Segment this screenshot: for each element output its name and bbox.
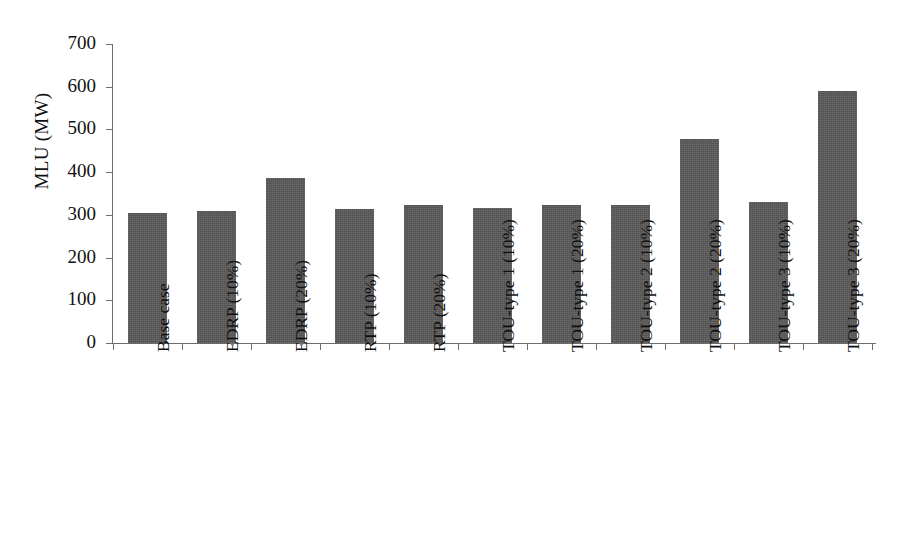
x-axis-tick bbox=[320, 343, 321, 350]
y-axis-tick-label: 600 bbox=[34, 76, 96, 95]
x-axis-tick bbox=[458, 343, 459, 350]
x-axis-label: EDRP (10%) bbox=[224, 352, 225, 353]
x-axis-label: TOU-type 2 (20%) bbox=[707, 352, 708, 353]
y-axis-tick-label-text: 200 bbox=[34, 247, 96, 266]
x-axis-label-text: TOU-type 3 (20%) bbox=[845, 219, 863, 352]
y-axis-tick-label: 300 bbox=[34, 204, 96, 223]
y-axis-tick bbox=[106, 129, 113, 130]
x-axis-tick bbox=[182, 343, 183, 350]
x-axis-tick bbox=[113, 343, 114, 350]
x-axis-label: TOU-type 3 (10%) bbox=[776, 352, 777, 353]
y-axis-tick bbox=[106, 172, 113, 173]
x-axis-label-text: TOU-type 1 (10%) bbox=[500, 219, 518, 352]
y-axis-tick-label-text: 0 bbox=[34, 332, 96, 351]
x-axis-label: TOU-type 1 (20%) bbox=[569, 352, 570, 353]
x-axis-label-text: EDRP (20%) bbox=[293, 260, 311, 352]
x-axis-label-text: TOU-type 1 (20%) bbox=[569, 219, 587, 352]
x-axis-label: Base case bbox=[155, 352, 156, 353]
x-axis-label-text: Base case bbox=[155, 283, 173, 352]
x-axis-label: RTP (10%) bbox=[362, 352, 363, 353]
y-axis-tick-label: 700 bbox=[34, 33, 96, 52]
x-axis-tick bbox=[251, 343, 252, 350]
x-axis-label-text: RTP (20%) bbox=[431, 273, 449, 352]
y-axis-tick-label-text: 300 bbox=[34, 204, 96, 223]
y-axis-tick-label: 100 bbox=[34, 289, 96, 308]
y-axis-tick bbox=[106, 258, 113, 259]
x-axis-tick bbox=[803, 343, 804, 350]
y-axis-tick bbox=[106, 343, 113, 344]
x-axis-label: TOU-type 3 (20%) bbox=[845, 352, 846, 353]
y-axis-tick-label-text: 600 bbox=[34, 76, 96, 95]
y-axis-tick-label-text: 700 bbox=[34, 33, 96, 52]
x-axis-label-text: TOU-type 2 (20%) bbox=[707, 219, 725, 352]
bar-chart: MLU (MW) 7006005004003002001000 Base cas… bbox=[0, 0, 901, 542]
y-axis-tick bbox=[106, 87, 113, 88]
y-axis-tick-label: 500 bbox=[34, 118, 96, 137]
x-axis-label-text: TOU-type 2 (10%) bbox=[638, 219, 656, 352]
x-axis-label-text: RTP (10%) bbox=[362, 273, 380, 352]
y-axis-tick-label-text: 500 bbox=[34, 118, 96, 137]
y-axis-tick-label: 0 bbox=[34, 332, 96, 351]
x-axis-tick bbox=[872, 343, 873, 350]
x-axis-label: TOU-type 2 (10%) bbox=[638, 352, 639, 353]
y-axis-tick-label: 400 bbox=[34, 161, 96, 180]
x-axis-tick bbox=[389, 343, 390, 350]
x-axis-label-text: EDRP (10%) bbox=[224, 260, 242, 352]
x-axis-tick bbox=[596, 343, 597, 350]
x-axis-tick bbox=[734, 343, 735, 350]
x-axis-label: EDRP (20%) bbox=[293, 352, 294, 353]
x-axis-tick bbox=[527, 343, 528, 350]
y-axis-tick bbox=[106, 215, 113, 216]
x-axis-tick bbox=[665, 343, 666, 350]
y-axis-tick bbox=[106, 300, 113, 301]
x-axis-label-text: TOU-type 3 (10%) bbox=[776, 219, 794, 352]
y-axis-tick bbox=[106, 44, 113, 45]
y-axis-tick-label-text: 100 bbox=[34, 289, 96, 308]
y-axis-tick-label-text: 400 bbox=[34, 161, 96, 180]
x-axis-label: RTP (20%) bbox=[431, 352, 432, 353]
x-axis-label: TOU-type 1 (10%) bbox=[500, 352, 501, 353]
y-axis-tick-label: 200 bbox=[34, 247, 96, 266]
